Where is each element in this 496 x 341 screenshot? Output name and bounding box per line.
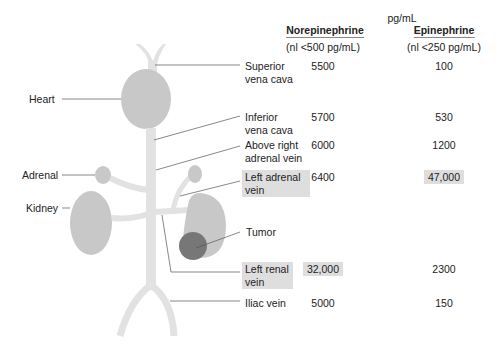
units-label: pg/mL xyxy=(387,12,416,24)
site-line2: vein xyxy=(245,276,290,289)
right-renal-vein xyxy=(112,214,148,219)
adrenal-label: Adrenal xyxy=(22,169,58,181)
left-adrenal xyxy=(188,165,202,183)
norepinephrine-value: 5000 xyxy=(311,297,334,309)
kidney-label: Kidney xyxy=(26,202,58,214)
iliac-veins xyxy=(120,285,174,336)
epinephrine-value: 150 xyxy=(435,297,453,309)
site-line1: Left renal xyxy=(245,263,290,276)
right-adrenal xyxy=(95,166,111,184)
site-line2: vena cava xyxy=(245,124,293,137)
norepinephrine-value: 5500 xyxy=(311,60,334,72)
site-line1: Superior xyxy=(245,60,293,73)
site-line2: vein xyxy=(245,184,307,197)
epinephrine-value-highlighted: 47,000 xyxy=(424,170,464,184)
norepinephrine-normal-range: (nl <500 pg/mL) xyxy=(286,41,360,53)
site-left-renal-vein: Left renal vein xyxy=(242,262,293,289)
tumor-label: Tumor xyxy=(246,226,276,238)
site-line2: adrenal vein xyxy=(245,152,302,165)
epinephrine-header: Epinephrine xyxy=(414,24,475,38)
site-line2: vena cava xyxy=(245,73,293,86)
right-adrenal-vein xyxy=(110,178,148,190)
tumor-mass xyxy=(179,232,207,260)
epinephrine-value: 530 xyxy=(435,111,453,123)
heart-shape xyxy=(121,69,171,129)
heart-label: Heart xyxy=(29,93,55,105)
site-line1: Iliac vein xyxy=(245,297,286,310)
epinephrine-value: 2300 xyxy=(432,263,455,275)
norepinephrine-value: 6000 xyxy=(311,139,334,151)
norepinephrine-value: 5700 xyxy=(311,111,334,123)
right-kidney xyxy=(70,191,112,255)
norepinephrine-value: 6400 xyxy=(311,171,334,183)
site-line1: Inferior xyxy=(245,111,293,124)
epinephrine-value: 100 xyxy=(435,60,453,72)
epinephrine-value: 1200 xyxy=(432,139,455,151)
site-iliac-vein: Iliac vein xyxy=(242,296,289,311)
norepinephrine-value-highlighted: 32,000 xyxy=(303,262,343,276)
epinephrine-normal-range: (nl <250 pg/mL) xyxy=(407,41,481,53)
norepinephrine-header: Norepinephrine xyxy=(286,24,364,38)
